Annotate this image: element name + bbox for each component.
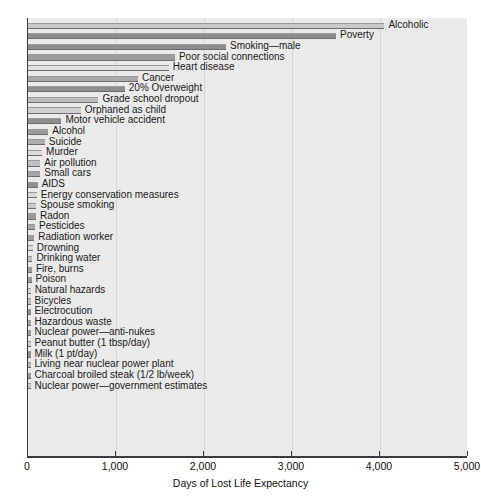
x-axis-line <box>27 456 467 458</box>
bar-row: Alcoholic <box>28 21 467 32</box>
bar-rows: AlcoholicPovertySmoking—malePoor social … <box>28 21 467 392</box>
plot-area: AlcoholicPovertySmoking—malePoor social … <box>27 18 467 456</box>
x-tick-label: 3,000 <box>278 460 304 473</box>
bar <box>28 86 125 92</box>
x-tick-mark <box>379 451 380 456</box>
bar-row: Radiation worker <box>28 233 467 244</box>
bar <box>28 76 138 82</box>
bar <box>28 23 384 29</box>
bar <box>28 171 40 177</box>
bar-row: Radon <box>28 212 467 223</box>
bar <box>28 203 36 209</box>
bar-row: 20% Overweight <box>28 85 467 96</box>
bar <box>28 65 169 71</box>
x-tick-mark <box>467 451 468 456</box>
bar <box>28 160 40 166</box>
bar-row: Motor vehicle accident <box>28 116 467 127</box>
bar-label: Heart disease <box>173 61 235 73</box>
x-tick-mark <box>203 451 204 456</box>
bar-row: Cancer <box>28 74 467 85</box>
bar <box>28 309 31 315</box>
x-tick-mark <box>27 451 28 456</box>
bar <box>28 224 35 230</box>
bar <box>28 107 81 113</box>
bar <box>28 373 31 379</box>
bar-row: Drinking water <box>28 254 467 265</box>
bar-label: Poverty <box>340 29 374 41</box>
bar <box>28 288 31 294</box>
x-axis-title: Days of Lost Life Expectancy <box>0 477 481 489</box>
bar <box>28 267 32 273</box>
bar <box>28 182 38 188</box>
bar-row: Small cars <box>28 170 467 181</box>
bar-row: Poor social connections <box>28 53 467 64</box>
bar-row: Bicycles <box>28 297 467 308</box>
bar-row: Suicide <box>28 138 467 149</box>
bar <box>28 298 31 304</box>
bar <box>28 320 31 326</box>
x-tick-label: 2,000 <box>190 460 216 473</box>
x-tick-label: 0 <box>24 460 30 473</box>
bar <box>28 44 226 50</box>
bar <box>28 277 32 283</box>
bar-row: Nuclear power—government estimates <box>28 382 467 393</box>
bar <box>28 139 45 145</box>
bar <box>28 245 33 251</box>
bar-chart: AlcoholicPovertySmoking—malePoor social … <box>0 0 481 499</box>
bar <box>28 383 31 389</box>
x-tick-label: 5,000 <box>454 460 480 473</box>
bar-row: Heart disease <box>28 63 467 74</box>
bar-label: Alcoholic <box>388 19 428 31</box>
bar <box>28 54 175 60</box>
bar-row: Fire, burns <box>28 265 467 276</box>
bar-label: Nuclear power—government estimates <box>35 380 208 392</box>
bar <box>28 235 34 241</box>
x-tick-label: 1,000 <box>102 460 128 473</box>
bar-row: Alcohol <box>28 127 467 138</box>
bar <box>28 192 37 198</box>
x-tick-mark <box>115 451 116 456</box>
bar <box>28 213 36 219</box>
bar <box>28 150 42 156</box>
bar <box>28 330 31 336</box>
bar <box>28 118 61 124</box>
bar <box>28 33 336 39</box>
bar <box>28 97 98 103</box>
bar <box>28 351 31 357</box>
bar-row: Spouse smoking <box>28 201 467 212</box>
bar-row: Air pollution <box>28 159 467 170</box>
x-tick-mark <box>291 451 292 456</box>
bar <box>28 341 31 347</box>
bar <box>28 362 31 368</box>
bar <box>28 256 32 262</box>
bar <box>28 129 48 135</box>
x-tick-label: 4,000 <box>366 460 392 473</box>
bar-row: Natural hazards <box>28 286 467 297</box>
